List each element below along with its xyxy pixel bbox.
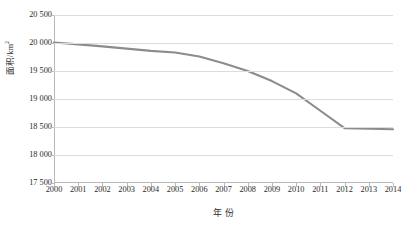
y-axis-tick-mark	[50, 127, 54, 128]
x-axis-tick-label: 2014	[385, 186, 401, 194]
y-axis-tick-mark	[50, 43, 54, 44]
x-axis-tick-label: 2010	[288, 186, 305, 194]
x-axis-tick-label: 2008	[239, 186, 256, 194]
x-axis-tick-label: 2006	[191, 186, 208, 194]
gridline	[54, 155, 393, 156]
x-axis-tick-label: 2000	[46, 186, 63, 194]
y-axis-tick-mark	[50, 71, 54, 72]
y-axis-tick-mark	[50, 15, 54, 16]
y-axis-tick-label: 18 000	[8, 151, 52, 159]
y-axis-tick-mark	[50, 155, 54, 156]
y-axis-tick-label: 18 500	[8, 123, 52, 131]
plot-area	[54, 15, 393, 183]
x-axis-tick-label: 2009	[264, 186, 281, 194]
x-axis-title: 年 份	[54, 206, 393, 219]
x-axis-tick-labels: 2000200120022003200420052006200720082009…	[54, 186, 393, 202]
y-axis-tick-label: 20 500	[8, 11, 52, 19]
x-axis-tick-label: 2001	[70, 186, 87, 194]
y-axis-tick-label: 19 000	[8, 95, 52, 103]
gridline	[54, 43, 393, 44]
gridline	[54, 127, 393, 128]
gridline	[54, 99, 393, 100]
x-axis-tick-label: 2012	[336, 186, 353, 194]
x-axis-tick-label: 2002	[94, 186, 111, 194]
x-axis-tick-label: 2005	[167, 186, 184, 194]
x-axis-tick-label: 2011	[312, 186, 328, 194]
x-axis-tick-label: 2013	[360, 186, 377, 194]
x-axis-tick-label: 2004	[143, 186, 160, 194]
x-axis-tick-label: 2007	[215, 186, 232, 194]
y-axis-tick-label: 19 500	[8, 67, 52, 75]
y-axis-tick-label: 20 000	[8, 39, 52, 47]
x-axis-tick-label: 2003	[118, 186, 135, 194]
gridline	[54, 15, 393, 16]
gridline	[54, 71, 393, 72]
y-axis-tick-mark	[50, 99, 54, 100]
series-line-path	[54, 42, 393, 129]
y-axis-tick-labels: 20 50020 00019 50019 00018 50018 00017 5…	[8, 0, 52, 233]
